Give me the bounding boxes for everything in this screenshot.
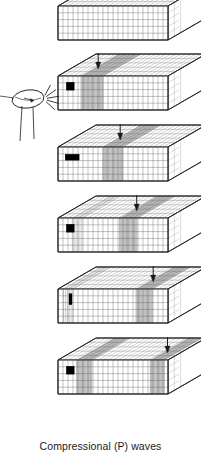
impact-line-4 [46, 102, 55, 110]
particle-marker [66, 82, 74, 90]
hammer-group [0, 85, 59, 141]
block-right-face [168, 0, 201, 40]
block-frame-5 [58, 266, 201, 323]
block-frame-6 [58, 337, 201, 394]
impact-line-3 [47, 100, 59, 103]
block-frame-3 [58, 124, 201, 181]
figure-caption: Compressional (P) waves [0, 440, 201, 452]
particle-marker [66, 366, 74, 374]
particle-marker [65, 154, 79, 160]
hammer-handle-right [33, 107, 34, 139]
block-frame-4 [58, 195, 201, 252]
particle-marker [69, 294, 72, 305]
impact-line-2 [47, 96, 59, 98]
hammer-handle-left [20, 106, 22, 141]
hammer-guide-line [0, 96, 14, 98]
p-wave-propagation-figure [0, 0, 201, 455]
block-frame-1 [58, 0, 201, 40]
p-wave-diagram-svg [0, 0, 201, 455]
particle-marker [66, 224, 74, 232]
